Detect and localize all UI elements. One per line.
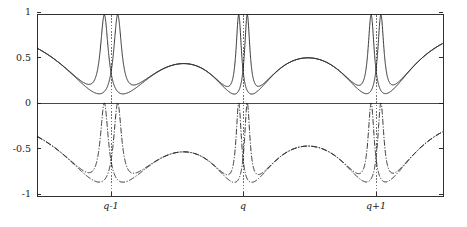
axes-group bbox=[37, 12, 443, 196]
plot-frame bbox=[37, 14, 443, 196]
resonance-guide-lines bbox=[111, 15, 376, 195]
y-tick-label-1: 0.5 bbox=[16, 52, 31, 63]
y-tick-label-3: -0.5 bbox=[13, 143, 31, 154]
y-tick-label-4: -1 bbox=[22, 188, 31, 199]
y-tick-label-0: 1 bbox=[25, 6, 31, 17]
curve-lower-secondary bbox=[37, 103, 443, 182]
x-tick-label-0: q-1 bbox=[103, 200, 118, 211]
resonance-plot: 10.50-0.5-1 q-1qq+1 bbox=[0, 0, 467, 227]
x-tick-labels: q-1qq+1 bbox=[103, 200, 386, 211]
x-tick-label-1: q bbox=[240, 200, 246, 211]
x-tick-label-2: q+1 bbox=[366, 200, 386, 211]
figure-container: 10.50-0.5-1 q-1qq+1 bbox=[0, 0, 467, 227]
y-tick-label-2: 0 bbox=[25, 97, 31, 108]
y-tick-labels: 10.50-0.5-1 bbox=[13, 6, 31, 199]
curves-group bbox=[37, 15, 443, 183]
